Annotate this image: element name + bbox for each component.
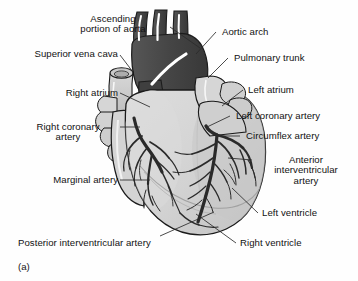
label-pulmonary-trunk: Pulmonary trunk — [234, 53, 358, 63]
label-aortic-arch: Aortic arch — [222, 27, 342, 37]
label-left-atrium: Left atrium — [248, 85, 358, 95]
label-posterior-interventricular-artery: Posterior interventricular artery — [18, 238, 218, 248]
label-right-atrium: Right atrium — [20, 88, 118, 98]
label-left-coronary-artery: Left coronary artery — [236, 111, 358, 121]
label-right-coronary-artery: Right coronaryartery — [18, 122, 118, 143]
label-superior-vena-cava: Superior vena cava — [8, 49, 118, 59]
heart-anatomy-figure: Ascendingportion of aorta Superior vena … — [0, 0, 358, 281]
label-ascending-aorta: Ascendingportion of aorta — [58, 14, 168, 35]
label-marginal-artery: Marginal artery — [14, 175, 118, 185]
label-circumflex-artery: Circumflex artery — [246, 131, 358, 141]
label-right-ventricle: Right ventricle — [240, 238, 350, 248]
label-anterior-interventricular-artery: Anteriorinterventricularartery — [258, 155, 354, 186]
label-left-ventricle: Left ventricle — [262, 208, 358, 218]
figure-caption: (a) — [18, 261, 30, 272]
pulmonary-trunk-vessel — [195, 76, 252, 136]
